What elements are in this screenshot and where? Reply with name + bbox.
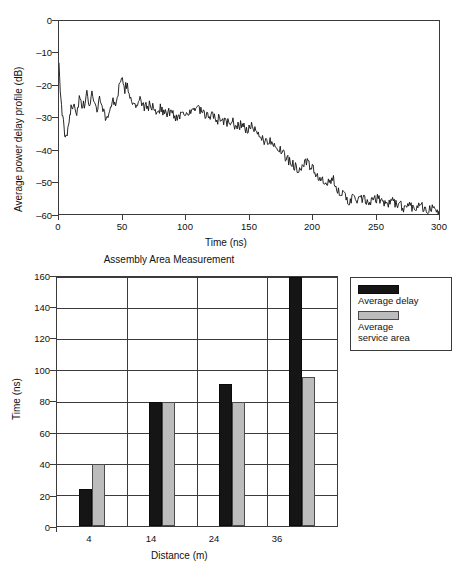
pdp-y-tick-2: –20	[32, 81, 52, 91]
pdp-x-tick-0: 0	[48, 222, 68, 232]
pdp-y-tick-4: –40	[32, 146, 52, 156]
pdp-x-tick-1: 50	[112, 222, 132, 232]
legend-entry-average-delay: Average delay	[358, 285, 445, 306]
legend-swatch-average-delay-icon	[358, 285, 399, 294]
pdp-x-tick-2: 100	[173, 222, 197, 232]
pdp-y-axis-title: Average power delay profile (dB)	[14, 67, 24, 212]
bar-average-service-area-24	[232, 402, 245, 527]
legend-label-average-delay: Average delay	[358, 295, 445, 306]
bars-y-tick-120: 120	[26, 334, 50, 344]
pdp-x-axis-title: Time (ns)	[205, 238, 247, 248]
bars-y-tick-100: 100	[26, 366, 50, 376]
bars-x-tick-14: 14	[139, 534, 163, 544]
bar-average-delay-36	[289, 277, 302, 526]
bars-y-tick-40: 40	[26, 460, 50, 470]
bar-average-service-area-4	[92, 464, 105, 526]
bar-average-delay-14	[149, 402, 162, 527]
pdp-y-tick-1: –10	[32, 48, 52, 58]
bars-y-tick-60: 60	[26, 429, 50, 439]
pdp-x-tick-4: 200	[300, 222, 324, 232]
bars-y-tick-140: 140	[26, 303, 50, 313]
bars-x-tickmark-left	[56, 527, 57, 532]
bar-average-service-area-36	[302, 377, 315, 526]
bars-y-tick-20: 20	[26, 492, 50, 502]
assembly-area-measurement-figure: Assembly Area Measurement Time (ns) 160 …	[0, 252, 460, 575]
bars-y-tick-160: 160	[26, 272, 50, 282]
power-delay-profile-figure: Average power delay profile (dB) 0 –10 –…	[0, 0, 460, 255]
category-separator-1	[127, 277, 128, 526]
pdp-x-tickmark-1	[122, 215, 123, 220]
pdp-x-tickmark-2	[185, 215, 186, 220]
bars-x-tick-24: 24	[202, 534, 226, 544]
pdp-plot-area	[58, 20, 440, 215]
bars-x-axis-title: Distance (m)	[151, 551, 208, 561]
bars-chart-title: Assembly Area Measurement	[0, 254, 338, 265]
pdp-trace-svg	[59, 21, 439, 214]
pdp-y-tick-3: –30	[32, 113, 52, 123]
bars-y-axis-title: Time (ns)	[12, 378, 22, 420]
bars-legend: Average delay Average service area	[350, 277, 452, 351]
bars-x-tick-4: 4	[77, 534, 101, 544]
pdp-x-tickmark-6	[439, 215, 440, 220]
pdp-trace-line	[59, 63, 439, 214]
pdp-y-tick-0: 0	[40, 16, 52, 26]
category-separator-2	[197, 277, 198, 526]
bar-average-service-area-14	[162, 402, 175, 527]
legend-entry-average-service-area: Average service area	[358, 311, 445, 343]
legend-label-average-service-area: Average service area	[358, 321, 445, 343]
pdp-x-tickmark-0	[58, 215, 59, 220]
pdp-x-tick-5: 250	[364, 222, 388, 232]
pdp-x-tickmark-3	[249, 215, 250, 220]
pdp-x-tickmark-5	[376, 215, 377, 220]
category-separator-3	[267, 277, 268, 526]
bar-average-delay-4	[79, 489, 92, 526]
pdp-x-tick-3: 150	[237, 222, 261, 232]
pdp-x-tickmark-4	[312, 215, 313, 220]
bars-plot-area	[56, 276, 338, 527]
bars-y-tick-80: 80	[26, 397, 50, 407]
legend-swatch-average-service-area-icon	[358, 311, 399, 320]
pdp-y-tick-5: –50	[32, 178, 52, 188]
bars-x-tick-36: 36	[265, 534, 289, 544]
bar-average-delay-24	[219, 384, 232, 526]
pdp-x-tick-6: 300	[427, 222, 451, 232]
pdp-y-tick-6: –60	[32, 211, 52, 221]
bars-y-tick-0: 0	[26, 523, 50, 533]
